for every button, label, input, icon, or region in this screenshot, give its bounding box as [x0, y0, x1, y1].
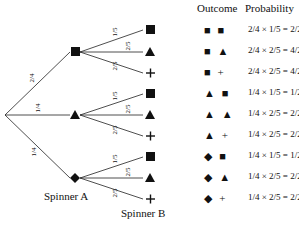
outcome-cell: ▲ ■: [204, 87, 244, 99]
outcome-cell: ◆ ▲: [204, 171, 244, 184]
probability-cell: 1/4 × 2/5 = 2/20: [248, 108, 299, 118]
probability-header: Probability: [245, 2, 294, 14]
probability-cell: 2/4 × 2/5 = 4/20: [248, 66, 299, 76]
probability-cell: 1/4 × 1/5 = 1/20: [248, 150, 299, 160]
outcome-cell: ▲ +: [204, 129, 244, 141]
branch-a-triangle-prob: 1/4: [34, 103, 42, 112]
svg-text:2/5: 2/5: [111, 188, 119, 197]
square-icon: [71, 47, 80, 56]
svg-text:1/5: 1/5: [111, 91, 119, 100]
probability-cell: 1/4 × 2/5 = 2/20: [248, 129, 299, 139]
plus-icon: [146, 132, 155, 141]
triangle-icon: [70, 110, 80, 119]
svg-text:2/5: 2/5: [124, 104, 132, 113]
svg-text:1/5: 1/5: [111, 154, 119, 163]
spinner-a-label: Spinner A: [44, 190, 88, 202]
branch-a-diamond-prob: 1/4: [30, 147, 38, 156]
outcome-header: Outcome: [197, 2, 237, 14]
plus-icon: [146, 69, 155, 78]
svg-text:2/5: 2/5: [111, 125, 119, 134]
triangle-icon: [145, 173, 155, 182]
spinner-b-label: Spinner B: [121, 207, 165, 219]
svg-text:2/5: 2/5: [111, 61, 119, 70]
probability-cell: 2/4 × 1/5 = 2/20: [248, 24, 299, 34]
outcome-cell: ■ ▲: [204, 45, 244, 57]
triangle-icon: [145, 47, 155, 56]
branch-a-square-prob: 2/4: [28, 73, 36, 82]
svg-text:2/5: 2/5: [124, 41, 132, 50]
spinner-b-branches: [80, 30, 143, 199]
probability-cell: 2/4 × 2/5 = 4/20: [248, 45, 299, 55]
probability-cell: 1/4 × 2/5 = 2/20: [248, 192, 299, 202]
square-icon: [146, 25, 155, 34]
svg-text:1/5: 1/5: [111, 27, 119, 36]
svg-text:2/5: 2/5: [124, 167, 132, 176]
square-icon: [146, 89, 155, 98]
probability-cell: 1/4 × 2/5 = 2/20: [248, 171, 299, 181]
outcome-cell: ▲ ▲: [204, 108, 244, 120]
outcome-cell: ■ ■: [204, 24, 244, 36]
square-icon: [146, 152, 155, 161]
spinner-a-branches: [5, 52, 70, 178]
plus-icon: [146, 195, 155, 204]
probability-cell: 1/4 × 1/5 = 1/20: [248, 87, 299, 97]
outcome-cell: ■ +: [204, 66, 244, 78]
triangle-icon: [145, 110, 155, 119]
diamond-icon: [70, 173, 80, 183]
outcome-cell: ◆ +: [204, 192, 244, 205]
outcome-cell: ◆ ■: [204, 150, 244, 163]
